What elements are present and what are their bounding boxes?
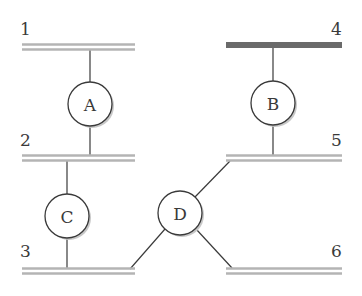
bus-label: 4 xyxy=(331,19,342,39)
bus-label: 2 xyxy=(20,130,31,150)
bus-3: 3 xyxy=(20,241,135,274)
node-D: D xyxy=(158,191,204,237)
bus-1: 1 xyxy=(20,19,135,50)
bus-6: 6 xyxy=(226,241,342,274)
connection-D-bus-3 xyxy=(130,229,165,269)
network-diagram: 123456 ABCD xyxy=(0,0,362,296)
bus-2: 2 xyxy=(20,130,135,161)
bus-5: 5 xyxy=(226,130,342,161)
node-label: C xyxy=(60,207,73,227)
connection-lines xyxy=(67,48,273,269)
bus-label: 5 xyxy=(331,130,342,150)
node-B: B xyxy=(251,81,297,127)
bus-label: 3 xyxy=(20,241,31,261)
node-label: B xyxy=(267,94,280,114)
connection-D-bus-5 xyxy=(195,161,230,197)
bus-label: 6 xyxy=(331,241,342,261)
node-A: A xyxy=(68,82,114,128)
bus-label: 1 xyxy=(20,19,31,39)
connection-D-bus-6 xyxy=(196,229,232,268)
node-C: C xyxy=(45,194,91,240)
node-label: D xyxy=(173,204,187,224)
bus-4: 4 xyxy=(226,19,342,45)
node-label: A xyxy=(83,95,97,115)
